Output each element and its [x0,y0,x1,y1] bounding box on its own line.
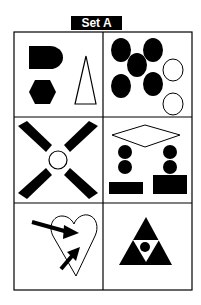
d-shape [29,46,63,69]
panel-4 [109,125,187,194]
heart [51,215,97,276]
panel-5 [32,215,97,276]
panel-6 [119,217,172,265]
grid-lines [14,32,192,290]
center-circle [49,151,67,169]
hexagon [29,80,56,104]
outlined-triangle [75,56,96,104]
black-dot [140,242,150,252]
figure-grid [0,0,201,305]
panel-3 [18,121,98,199]
diamond [112,125,180,147]
panel-2 [111,38,183,115]
panel-1 [29,46,96,104]
